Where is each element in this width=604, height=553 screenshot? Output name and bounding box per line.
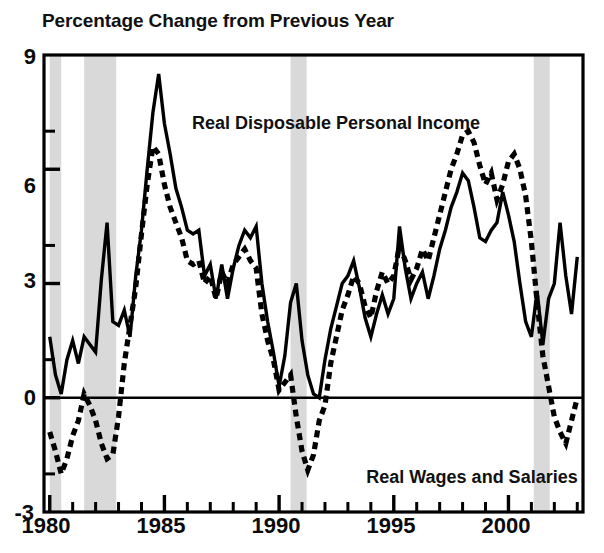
series-label-real-disposable-personal-income: Real Disposable Personal Income — [192, 113, 480, 134]
ytick-label-0: 0 — [0, 385, 36, 411]
ytick-label-3: 3 — [0, 268, 36, 294]
xtick-label-2000: 2000 — [451, 513, 561, 539]
axis-ticks-group — [44, 131, 577, 512]
xtick-label-1995: 1995 — [336, 513, 446, 539]
xtick-label-1985: 1985 — [106, 513, 216, 539]
xtick-label-1990: 1990 — [221, 513, 331, 539]
series-line-real-wages-and-salaries — [50, 131, 578, 474]
ytick-label-6: 6 — [0, 173, 36, 199]
chart-figure: Percentage Change from Previous Year 9 6… — [0, 0, 604, 553]
xtick-label-1980: 1980 — [0, 513, 101, 539]
data-series-group — [50, 74, 578, 474]
series-label-real-wages-and-salaries: Real Wages and Salaries — [366, 467, 577, 488]
ytick-label-9: 9 — [0, 44, 36, 70]
